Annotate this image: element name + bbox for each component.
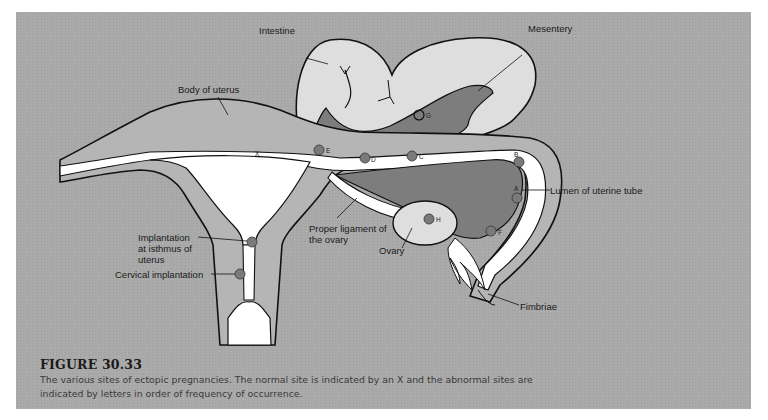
site-isthmus-dot <box>247 237 257 247</box>
figure-number: FIGURE 30.33 <box>40 357 142 372</box>
site-cervical-dot <box>235 269 245 279</box>
site-e-dot <box>314 145 324 155</box>
label-proper-ligament-2: the ovary <box>309 234 348 245</box>
leader-fimbriae <box>488 294 519 305</box>
site-e-label: E <box>326 147 330 154</box>
label-proper-ligament-1: Proper ligament of <box>309 223 387 234</box>
site-d-dot <box>360 153 370 163</box>
site-h-label: H <box>436 216 441 223</box>
site-f-dot <box>486 226 496 236</box>
fimbriae <box>448 238 485 290</box>
label-mesentery: Mesentery <box>528 23 572 34</box>
site-c-label: C <box>419 153 424 160</box>
site-a-dot <box>512 193 522 203</box>
label-lumen-of-uterine-tube: Lumen of uterine tube <box>550 185 642 196</box>
label-fimbriae: Fimbriae <box>520 301 557 312</box>
label-isthmus-2: at isthmus of <box>138 243 192 254</box>
label-body-of-uterus: Body of uterus <box>178 84 239 95</box>
site-c-dot <box>407 151 417 161</box>
site-b-label: B <box>514 151 518 158</box>
ovary <box>393 201 457 245</box>
label-cervical-implantation: Cervical implantation <box>115 269 203 280</box>
site-h-dot <box>424 214 434 224</box>
site-f-label: F <box>498 229 502 236</box>
label-intestine: Intestine <box>259 25 295 36</box>
site-d-label: D <box>371 156 376 163</box>
site-b-dot <box>514 157 524 167</box>
site-x-label: X <box>255 150 259 157</box>
figure-caption: The various sites of ectopic pregnancies… <box>40 373 560 401</box>
label-ovary: Ovary <box>379 245 404 256</box>
site-g-label: G <box>426 112 431 119</box>
site-a-label: A <box>514 185 518 192</box>
leader-proper-ligament <box>337 198 357 218</box>
label-isthmus-1: Implantation <box>138 232 190 243</box>
label-isthmus-3: uterus <box>138 254 164 265</box>
